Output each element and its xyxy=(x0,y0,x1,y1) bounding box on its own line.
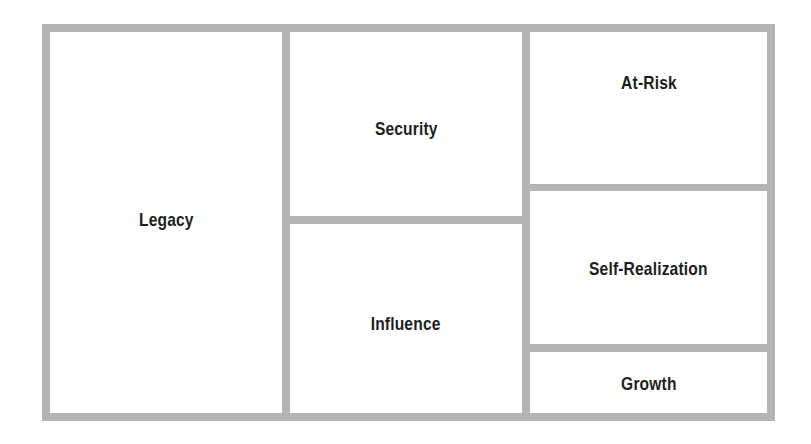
cell-growth: Growth xyxy=(530,352,767,413)
label-growth: Growth xyxy=(621,373,677,395)
label-security: Security xyxy=(375,118,438,140)
cell-influence: Influence xyxy=(290,224,522,413)
label-influence: Influence xyxy=(371,313,441,335)
label-self-realization: Self-Realization xyxy=(589,258,708,280)
cell-security: Security xyxy=(290,32,522,216)
cell-self-realization: Self-Realization xyxy=(530,191,767,344)
diagram-frame: Legacy Security Influence At-Risk Self-R… xyxy=(42,24,775,421)
cell-at-risk: At-Risk xyxy=(530,32,767,184)
label-legacy: Legacy xyxy=(139,209,194,231)
label-at-risk: At-Risk xyxy=(621,72,677,94)
cell-legacy: Legacy xyxy=(50,32,282,413)
